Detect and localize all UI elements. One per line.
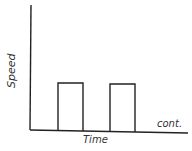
speed-time-chart: Speed Time cont. (0, 0, 192, 151)
pulse-1 (58, 83, 83, 131)
continuation-label: cont. (157, 118, 182, 129)
pulse-2 (110, 84, 135, 132)
x-axis-label: Time (83, 134, 108, 145)
x-axis (30, 130, 188, 133)
y-axis (30, 5, 31, 130)
y-axis-label: Speed (5, 53, 18, 89)
